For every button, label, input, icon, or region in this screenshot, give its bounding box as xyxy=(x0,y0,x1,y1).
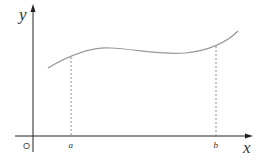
x-axis-label: x xyxy=(242,138,251,157)
origin-label: O xyxy=(23,141,30,151)
b-label: b xyxy=(214,140,219,150)
function-curve xyxy=(48,31,238,68)
function-graph: y x O a b xyxy=(0,0,269,162)
y-axis-arrow-icon xyxy=(31,4,36,12)
a-label: a xyxy=(69,140,74,150)
y-axis-label: y xyxy=(17,5,27,24)
